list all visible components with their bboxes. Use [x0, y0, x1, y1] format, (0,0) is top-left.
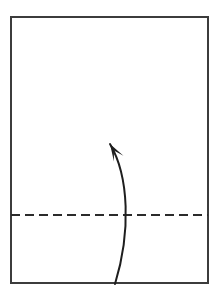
- fold-diagram-svg: [0, 0, 220, 297]
- paper-sheet: [11, 17, 208, 283]
- origami-diagram-canvas: Valley fold: bring bottom edge up to hor…: [0, 0, 220, 297]
